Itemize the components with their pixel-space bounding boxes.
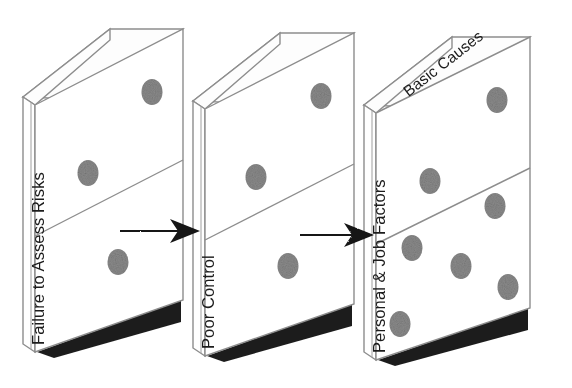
domino-diagram-canvas: Failure to Assess Risks Poor Control bbox=[0, 0, 572, 388]
domino-3-pip bbox=[485, 193, 506, 219]
domino-2-spine-label: Poor Control bbox=[199, 255, 217, 349]
domino-3-pip bbox=[498, 274, 519, 300]
domino-3-pip bbox=[402, 235, 423, 261]
domino-3-pip bbox=[487, 87, 508, 113]
domino-3-pip bbox=[420, 168, 441, 194]
domino-1-spine-label: Failure to Assess Risks bbox=[29, 172, 47, 345]
domino-2[interactable]: Poor Control bbox=[193, 33, 354, 362]
domino-1[interactable]: Failure to Assess Risks bbox=[23, 29, 183, 358]
domino-1-pip bbox=[108, 249, 129, 275]
domino-1-pip bbox=[142, 79, 163, 105]
domino-2-pip bbox=[278, 253, 299, 279]
domino-3[interactable]: Personal & Job Factors Basic Causes bbox=[364, 27, 530, 366]
domino-3-spine-label: Personal & Job Factors bbox=[370, 179, 388, 353]
domino-diagram-svg: Failure to Assess Risks Poor Control bbox=[0, 0, 572, 388]
domino-3-pip bbox=[390, 311, 411, 337]
domino-1-pip bbox=[78, 160, 99, 186]
domino-2-pip bbox=[246, 164, 267, 190]
domino-3-pip bbox=[451, 253, 472, 279]
domino-2-pip bbox=[311, 83, 332, 109]
